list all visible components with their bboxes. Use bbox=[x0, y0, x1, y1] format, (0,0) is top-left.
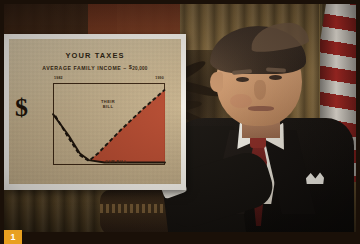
chart-subtitle: AVERAGE FAMILY INCOME – $20,000 bbox=[9, 64, 181, 71]
plot-area: 1982 1990 THEIR BILL OUR BILL bbox=[53, 83, 165, 165]
photograph: YOUR TAXES AVERAGE FAMILY INCOME – $20,0… bbox=[4, 4, 356, 232]
eye-left bbox=[236, 77, 249, 82]
annotation-their-bill: THEIR BILL bbox=[101, 99, 115, 109]
x-tick-start: 1982 bbox=[54, 76, 63, 80]
page-number-badge-label: 1 bbox=[10, 233, 15, 242]
chart-subtitle-prefix: AVERAGE FAMILY INCOME – bbox=[42, 65, 128, 71]
chart-board: YOUR TAXES AVERAGE FAMILY INCOME – $20,0… bbox=[4, 34, 186, 190]
mouth bbox=[248, 106, 274, 111]
cheek bbox=[230, 94, 252, 108]
page-number-badge: 1 bbox=[4, 230, 22, 244]
nose bbox=[254, 80, 266, 100]
dollar-sign-icon: $ bbox=[15, 95, 28, 121]
screenshot-root: YOUR TAXES AVERAGE FAMILY INCOME – $20,0… bbox=[0, 0, 360, 244]
annotation-their-bill-line2: BILL bbox=[103, 104, 114, 109]
chart-surface: YOUR TAXES AVERAGE FAMILY INCOME – $20,0… bbox=[9, 39, 181, 184]
x-tick-end: 1990 bbox=[155, 76, 164, 80]
chart-title: YOUR TAXES bbox=[9, 51, 181, 60]
ear bbox=[210, 72, 223, 92]
subtitle-amount: 20,000 bbox=[132, 66, 147, 71]
chart-curves bbox=[53, 83, 165, 165]
annotation-our-bill: OUR BILL bbox=[105, 159, 127, 164]
eye-right bbox=[269, 75, 282, 80]
